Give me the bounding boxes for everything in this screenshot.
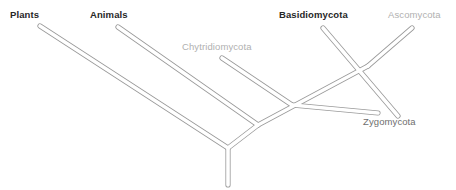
tip-label-plants: Plants: [10, 10, 39, 20]
tip-label-zygomycota: Zygomycota: [363, 117, 416, 127]
branch-chytridiomycota-fill: [222, 58, 292, 105]
branch-root-to-animals-fill: [228, 125, 258, 148]
branch-basidiomycota-fill: [323, 28, 398, 116]
tip-label-ascomycota: Ascomycota: [388, 10, 441, 20]
phylogenetic-tree-figure: Plants Animals Chytridiomycota Basidiomy…: [0, 0, 456, 190]
branch-ascomycota-fill: [368, 28, 412, 66]
tree-branch-diagram: [0, 0, 456, 190]
branch-zygomycota-fill: [292, 105, 378, 113]
tip-label-chytridiomycota: Chytridiomycota: [182, 42, 252, 52]
tip-label-animals: Animals: [90, 10, 128, 20]
tip-label-basidiomycota: Basidiomycota: [279, 10, 348, 20]
